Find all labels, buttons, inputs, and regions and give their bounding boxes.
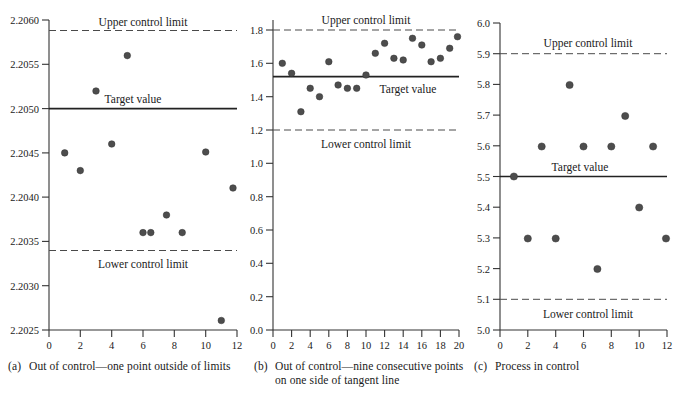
caption-b-text: Out of control—nine consecutive points o… [275,360,478,387]
data-point [446,45,453,52]
chart-b-y-ticklabels: 0.0 0.2 0.4 0.6 0.8 1.0 1.2 1.4 1.6 1.8 [250,25,264,336]
data-point [428,58,435,65]
data-point [363,72,370,79]
chart-panel-b: 0.0 0.2 0.4 0.6 0.8 1.0 1.2 1.4 1.6 1.8 [248,0,470,393]
chart-a-target-label: Target value [105,93,162,106]
data-point [140,229,147,236]
chart-b-x-ticks [273,330,459,337]
data-point [93,88,100,95]
chart-b-yticklabel-8: 1.6 [250,58,263,69]
data-point [353,85,360,92]
chart-c-y-ticklabels: 5.0 5.1 5.2 5.3 5.4 5.5 5.6 5.7 5.8 5.9 … [477,18,491,336]
data-point [608,143,615,150]
caption-b-tag: (b) [254,360,268,374]
chart-c-x-ticklabels: 0 2 4 6 8 10 12 [497,340,672,351]
caption-b: (b) Out of control—nine consecutive poin… [254,360,478,387]
chart-b-yticklabel-3: 0.6 [250,225,263,236]
chart-a-xticklabel-5: 10 [200,340,211,351]
chart-a-x-ticks [49,330,237,337]
chart-b-xticklabel-5: 10 [361,340,372,351]
chart-a-lower-limit-label: Lower control limit [98,258,189,270]
chart-a-upper-limit-label: Upper control limit [99,16,189,29]
data-point [316,93,323,100]
chart-a-x-ticklabels: 0 2 4 6 8 10 12 [46,340,242,351]
data-point [510,173,517,180]
chart-b-xticklabel-0: 0 [270,340,275,351]
data-point [552,235,559,242]
chart-a-xticklabel-3: 6 [140,340,145,351]
chart-a-y-ticks [42,20,49,330]
chart-b-xticklabel-1: 2 [289,340,294,351]
chart-c-yticklabel-3: 5.3 [477,233,490,244]
chart-b-xticklabel-3: 6 [326,340,331,351]
data-point [124,52,131,59]
data-point [279,60,286,67]
data-point [566,81,573,88]
caption-a-tag: (a) [8,360,21,374]
chart-c-yticklabel-5: 5.5 [477,172,490,183]
caption-a: (a) Out of control—one point outside of … [8,360,240,374]
data-point [437,55,444,62]
chart-c-yticklabel-0: 5.0 [477,325,490,336]
chart-b-y-ticks [266,30,273,330]
data-point [419,42,426,49]
data-point [372,50,379,57]
caption-c-text: Process in control [495,360,674,374]
chart-b-yticklabel-6: 1.2 [250,125,263,136]
data-point [636,204,643,211]
caption-c: (c) Process in control [474,360,674,374]
chart-b-xticklabel-2: 4 [308,340,314,351]
chart-c-xticklabel-2: 4 [553,340,559,351]
chart-b-x-ticklabels: 0 2 4 6 8 10 12 14 16 18 20 [270,340,464,351]
data-point [108,141,115,148]
data-point [622,112,629,119]
data-point [381,40,388,47]
chart-b-lower-limit-label: Lower control limit [321,138,412,150]
chart-c-y-ticks [493,23,500,330]
data-point [307,85,314,92]
data-point [148,229,155,236]
chart-a-y-ticklabels: 2.2025 2.2030 2.2035 2.2040 2.2045 2.205… [10,15,39,336]
data-point [202,149,209,156]
caption-c-tag: (c) [474,360,487,374]
data-point [454,33,461,40]
data-point [662,235,669,242]
data-point [594,265,601,272]
data-point [218,317,225,324]
chart-b-yticklabel-4: 0.8 [250,192,263,203]
chart-b-xticklabel-10: 20 [454,340,465,351]
chart-c-yticklabel-8: 5.8 [477,79,490,90]
data-point [77,167,84,174]
chart-panel-a: 2.2025 2.2030 2.2035 2.2040 2.2045 2.205… [0,0,248,393]
chart-a-yticklabel-5: 2.2050 [10,104,39,115]
chart-a-xticklabel-6: 12 [232,340,243,351]
chart-a-yticklabel-3: 2.2040 [10,192,39,203]
data-point [335,82,342,89]
chart-c-yticklabel-10: 6.0 [477,18,490,29]
chart-c-yticklabel-6: 5.6 [477,141,490,152]
chart-b-yticklabel-7: 1.4 [250,92,264,103]
data-point [230,185,237,192]
chart-c-xticklabel-0: 0 [497,340,502,351]
chart-b-xticklabel-7: 14 [398,340,409,351]
chart-b-yticklabel-5: 1.0 [250,158,263,169]
chart-b-plot: 0.0 0.2 0.4 0.6 0.8 1.0 1.2 1.4 1.6 1.8 [248,0,470,355]
data-point [580,143,587,150]
chart-a-plot: 2.2025 2.2030 2.2035 2.2040 2.2045 2.205… [0,0,248,355]
chart-b-yticklabel-9: 1.8 [250,25,263,36]
chart-a-yticklabel-7: 2.2060 [10,15,39,26]
chart-b-datapoints [279,33,461,115]
data-point [61,150,68,157]
chart-c-xticklabel-5: 10 [634,340,645,351]
chart-b-target-label: Target value [380,83,437,96]
chart-c-yticklabel-4: 5.4 [477,202,491,213]
control-charts-figure: 2.2025 2.2030 2.2035 2.2040 2.2045 2.205… [0,0,678,393]
chart-a-yticklabel-2: 2.2035 [10,236,39,247]
data-point [179,229,186,236]
chart-a-xticklabel-2: 4 [109,340,115,351]
chart-a-yticklabel-1: 2.2030 [10,281,39,292]
data-point [524,235,531,242]
chart-a-yticklabel-4: 2.2045 [10,148,39,159]
chart-b-yticklabel-1: 0.2 [250,292,263,303]
chart-a-xticklabel-0: 0 [46,340,51,351]
